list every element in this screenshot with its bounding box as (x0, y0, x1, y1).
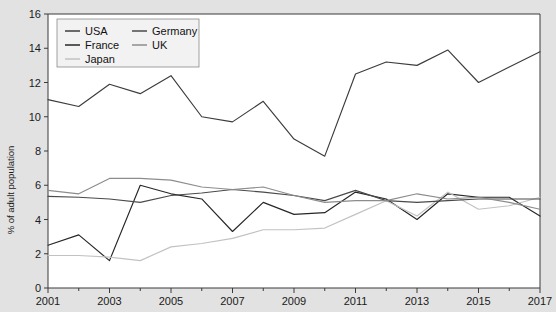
x-tick-label: 2015 (466, 295, 490, 307)
legend-label-japan[interactable]: Japan (85, 53, 115, 65)
y-tick-label: 10 (29, 111, 41, 123)
legend-label-uk[interactable]: UK (152, 39, 168, 51)
chart-figure: 0246810121416 20012003200520072009201120… (0, 0, 556, 312)
line-chart: 0246810121416 20012003200520072009201120… (0, 0, 556, 312)
y-tick-label: 12 (29, 77, 41, 89)
y-tick-label: 16 (29, 8, 41, 20)
chart-legend[interactable]: USAFranceJapanGermanyUK (57, 19, 199, 67)
x-tick-label: 2011 (344, 295, 368, 307)
y-tick-label: 2 (35, 248, 41, 260)
y-tick-label: 4 (35, 214, 41, 226)
x-tick-label: 2013 (405, 295, 429, 307)
y-tick-label: 0 (35, 282, 41, 294)
x-tick-label: 2003 (97, 295, 121, 307)
x-tick-label: 2005 (159, 295, 183, 307)
y-tick-label: 8 (35, 145, 41, 157)
y-tick-label: 6 (35, 179, 41, 191)
x-tick-label: 2009 (282, 295, 306, 307)
x-tick-label: 2007 (220, 295, 244, 307)
legend-label-usa[interactable]: USA (85, 25, 108, 37)
legend-label-france[interactable]: France (85, 39, 119, 51)
x-tick-label: 2017 (528, 295, 552, 307)
y-tick-label: 14 (29, 42, 41, 54)
legend-label-germany[interactable]: Germany (152, 25, 198, 37)
y-axis-label: % of adult population (5, 146, 16, 235)
x-tick-label: 2001 (36, 295, 60, 307)
